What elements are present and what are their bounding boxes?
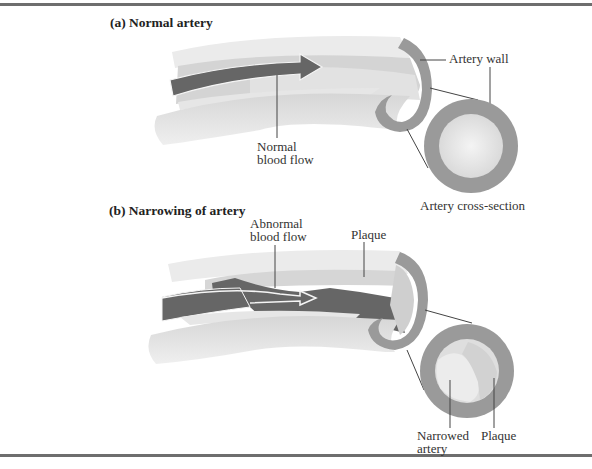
label-plaque-top: Plaque xyxy=(351,228,386,242)
label-cross-section: Artery cross-section xyxy=(420,199,525,213)
label-artery-wall: Artery wall xyxy=(449,52,509,66)
cross-section-narrowed xyxy=(420,324,514,418)
label-narrowed-2: artery xyxy=(417,442,447,456)
label-abnormal-flow-2: blood flow xyxy=(250,230,307,244)
label-normal-flow-2: blood flow xyxy=(257,153,314,167)
zoom-line-top-b xyxy=(425,310,472,323)
narrowed-artery-drawing xyxy=(148,250,428,364)
zoom-line-top-a xyxy=(430,88,478,100)
label-plaque-bottom: Plaque xyxy=(481,429,516,443)
cross-section-normal xyxy=(424,99,518,193)
normal-artery-drawing xyxy=(155,36,432,145)
